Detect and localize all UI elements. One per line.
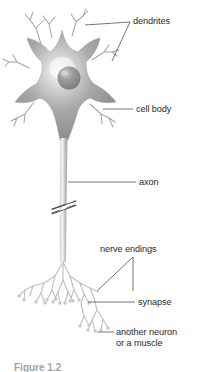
label-another-neuron: another neuron or a muscle — [116, 327, 177, 349]
label-nerve-endings: nerve endings — [100, 244, 156, 255]
label-axon: axon — [139, 177, 159, 188]
neuron-figure: dendrites cell body axon nerve endings s… — [0, 0, 207, 372]
leader-dendrites-lower — [112, 22, 130, 61]
figure-caption: Figure 1.2 — [14, 362, 61, 372]
leader-dendrites-upper — [85, 22, 130, 25]
label-another-neuron-line2: or a muscle — [116, 338, 177, 349]
leader-nerve-endings-diagonal — [97, 257, 133, 291]
label-dendrites: dendrites — [133, 16, 170, 27]
neuron-illustration — [0, 0, 207, 372]
nerve-endings-arbor — [19, 262, 108, 331]
axon-shaft — [60, 138, 68, 262]
label-another-neuron-line1: another neuron — [116, 327, 177, 337]
nucleus — [58, 67, 81, 90]
label-synapse: synapse — [138, 297, 172, 308]
label-cell-body: cell body — [136, 104, 171, 115]
nucleus-highlight — [61, 70, 68, 76]
